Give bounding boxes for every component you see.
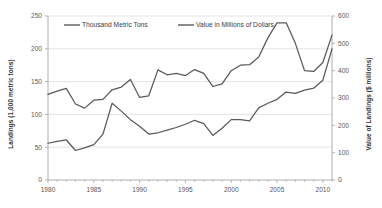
y-tick-label-left: 100 xyxy=(31,111,42,118)
legend-label: Value in Millions of Dollars xyxy=(196,21,275,28)
x-tick-label: 2000 xyxy=(224,186,239,193)
axis-lines xyxy=(48,16,332,180)
y-tick-label-right: 400 xyxy=(338,67,349,74)
y-tick-marks-right xyxy=(332,16,335,180)
chart-container: 050100150200250 0100200300400500600 1980… xyxy=(0,0,382,208)
y-axis-title-right: Value of Landings ($ millions) xyxy=(365,57,373,150)
series-line-value-in-millions-of-dollars xyxy=(48,23,332,108)
gridlines xyxy=(48,16,332,147)
y-axis-tick-labels-left: 050100150200250 xyxy=(31,12,42,183)
x-tick-label: 1985 xyxy=(86,186,101,193)
series-lines xyxy=(48,23,332,151)
y-tick-label-right: 600 xyxy=(338,12,349,19)
y-tick-label-right: 300 xyxy=(338,94,349,101)
y-tick-label-right: 500 xyxy=(338,40,349,47)
y-tick-label-left: 0 xyxy=(38,176,42,183)
y-tick-marks-left xyxy=(45,16,48,180)
y-tick-label-right: 100 xyxy=(338,149,349,156)
y-tick-label-left: 250 xyxy=(31,12,42,19)
y-tick-label-right: 200 xyxy=(338,122,349,129)
chart-legend: Thousand Metric TonsValue in Millions of… xyxy=(64,21,275,28)
series-line-thousand-metric-tons xyxy=(48,49,332,151)
x-tick-label: 1990 xyxy=(132,186,147,193)
y-tick-label-left: 150 xyxy=(31,78,42,85)
legend-label: Thousand Metric Tons xyxy=(82,21,148,28)
x-tick-label: 2010 xyxy=(316,186,331,193)
y-axis-tick-labels-right: 0100200300400500600 xyxy=(338,12,349,183)
y-tick-label-right: 0 xyxy=(338,176,342,183)
y-tick-label-left: 50 xyxy=(35,144,43,151)
x-tick-label: 1980 xyxy=(41,186,56,193)
x-axis-tick-labels: 1980198519901995200020052010 xyxy=(41,186,331,193)
y-tick-label-left: 200 xyxy=(31,45,42,52)
x-tick-label: 1995 xyxy=(178,186,193,193)
y-axis-title-left: Landings (1,000 metric tons) xyxy=(7,59,15,148)
line-chart: 050100150200250 0100200300400500600 1980… xyxy=(0,0,382,208)
x-tick-marks xyxy=(48,180,341,183)
x-tick-label: 2005 xyxy=(270,186,285,193)
